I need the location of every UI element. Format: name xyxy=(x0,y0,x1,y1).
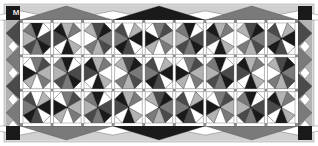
block-center-dot xyxy=(128,72,130,74)
block-center-dot xyxy=(158,38,160,40)
corner-label: M xyxy=(9,7,23,19)
block-center-dot xyxy=(250,107,252,109)
cornerstone xyxy=(142,89,145,92)
cornerstone xyxy=(203,123,206,126)
cornerstone xyxy=(173,123,176,126)
cornerstone xyxy=(112,89,115,92)
cornerstone xyxy=(20,123,23,126)
block-center-dot xyxy=(36,72,38,74)
cornerstone xyxy=(81,20,84,23)
block-center-dot xyxy=(250,38,252,40)
cornerstone xyxy=(264,89,267,92)
cornerstone xyxy=(173,89,176,92)
block-center-dot xyxy=(189,38,191,40)
block-center-dot xyxy=(97,72,99,74)
block-center-dot xyxy=(128,107,130,109)
cornerstone xyxy=(112,20,115,23)
block-center-dot xyxy=(280,107,282,109)
block-center-dot xyxy=(158,107,160,109)
cornerstone xyxy=(51,89,54,92)
block-center-dot xyxy=(219,107,221,109)
cornerstone xyxy=(203,54,206,57)
block-center-dot xyxy=(36,107,38,109)
block-center-dot xyxy=(189,107,191,109)
cornerstone xyxy=(20,20,23,23)
block-center-dot xyxy=(67,72,69,74)
cornerstone xyxy=(295,123,298,126)
cornerstone xyxy=(142,123,145,126)
cornerstone xyxy=(173,20,176,23)
cornerstone xyxy=(234,54,237,57)
cornerstone xyxy=(81,123,84,126)
corner-square-bottom-left xyxy=(6,126,20,140)
cornerstone xyxy=(112,54,115,57)
block-center-dot xyxy=(280,72,282,74)
cornerstone xyxy=(51,123,54,126)
block-center-dot xyxy=(128,38,130,40)
block-center-dot xyxy=(158,72,160,74)
cornerstone xyxy=(20,54,23,57)
block-center-dot xyxy=(219,72,221,74)
block-center-dot xyxy=(280,38,282,40)
cornerstone xyxy=(112,123,115,126)
cornerstone xyxy=(203,20,206,23)
cornerstone xyxy=(264,123,267,126)
cornerstone xyxy=(295,54,298,57)
block-center-dot xyxy=(97,38,99,40)
cornerstone xyxy=(81,54,84,57)
cornerstone xyxy=(20,89,23,92)
corner-square-bottom-right xyxy=(298,126,312,140)
quilt-svg xyxy=(0,0,318,146)
cornerstone xyxy=(203,89,206,92)
cornerstone xyxy=(81,89,84,92)
cornerstone xyxy=(264,20,267,23)
cornerstone xyxy=(234,20,237,23)
cornerstone xyxy=(51,20,54,23)
cornerstone xyxy=(264,54,267,57)
block-center-dot xyxy=(36,38,38,40)
cornerstone xyxy=(51,54,54,57)
corner-square-top-right xyxy=(298,6,312,20)
block-center-dot xyxy=(67,107,69,109)
block-center-dot xyxy=(67,38,69,40)
cornerstone xyxy=(173,54,176,57)
block-center-dot xyxy=(189,72,191,74)
cornerstone xyxy=(234,89,237,92)
cornerstone xyxy=(234,123,237,126)
cornerstone xyxy=(295,20,298,23)
cornerstone xyxy=(295,89,298,92)
cornerstone xyxy=(142,20,145,23)
block-center-dot xyxy=(250,72,252,74)
block-center-dot xyxy=(219,38,221,40)
cornerstone xyxy=(142,54,145,57)
block-center-dot xyxy=(97,107,99,109)
